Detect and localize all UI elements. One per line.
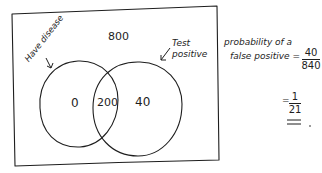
set-label-test-positive: Test positive (172, 38, 212, 60)
calculation-line-2: false positive = (230, 52, 300, 61)
fraction-denominator: 21 (289, 105, 302, 115)
fraction-numerator: 40 (305, 48, 318, 58)
fraction-numerator: 1 (292, 92, 298, 102)
fraction-40-over-840: 40 840 (302, 48, 320, 71)
set-label-test-positive-text: Test positive (172, 38, 207, 59)
fraction-denominator: 840 (301, 61, 320, 71)
arrow-icon (161, 48, 170, 60)
calculation-line-1: probability of a (224, 38, 292, 47)
universe-total-label: 800 (108, 31, 129, 42)
arrow-icon (46, 58, 53, 68)
period-dot (309, 125, 311, 127)
region-both-value: 200 (97, 97, 118, 108)
fraction-1-over-21: 1 21 (289, 92, 301, 115)
double-underline (287, 120, 301, 124)
region-positive-only-value: 40 (135, 96, 150, 108)
region-disease-only-value: 0 (71, 97, 79, 109)
